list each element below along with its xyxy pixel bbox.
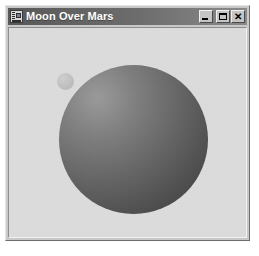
window-title: Moon Over Mars (26, 8, 199, 25)
application-window: Moon Over Mars ✕ (5, 5, 250, 241)
title-bar[interactable]: Moon Over Mars ✕ (8, 8, 247, 25)
planet-mars-sphere (59, 65, 208, 214)
moon-sphere (57, 73, 74, 90)
client-area (8, 27, 247, 238)
minimize-icon (202, 18, 208, 20)
desktop-background: Moon Over Mars ✕ (0, 0, 259, 256)
icon-base-detail (12, 20, 21, 22)
window-controls: ✕ (199, 10, 245, 23)
render-canvas (9, 28, 246, 237)
application-window-icon[interactable] (10, 10, 23, 23)
minimize-button[interactable] (199, 10, 213, 23)
maximize-button[interactable] (216, 10, 230, 23)
close-button[interactable]: ✕ (231, 10, 245, 23)
close-icon: ✕ (232, 11, 244, 22)
maximize-icon (219, 13, 227, 20)
icon-screen-detail (16, 13, 21, 18)
